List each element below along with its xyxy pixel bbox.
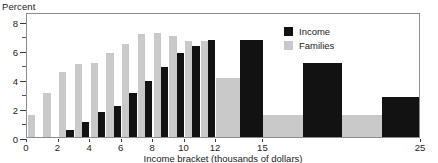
y-tick-label-8: 8 <box>13 17 18 28</box>
x-tick-label-8: 8 <box>149 142 154 153</box>
chart-legend: Income Families <box>284 27 334 54</box>
bar-income-9-10 <box>177 53 184 137</box>
bar-income-10-11 <box>192 46 199 137</box>
y-tick-label-6: 6 <box>13 46 18 57</box>
x-tick-label-4: 4 <box>86 142 91 153</box>
bar-families-7-8 <box>138 34 145 137</box>
legend-label-families: Families <box>299 41 334 51</box>
bar-income-15-20 <box>303 63 342 137</box>
bar-income-8-9 <box>161 67 168 137</box>
bar-income-3-4 <box>82 122 89 137</box>
plot-area <box>26 13 420 138</box>
bar-families-9-10 <box>169 36 176 137</box>
bar-families-6-7 <box>122 44 129 137</box>
bar-families-10-11 <box>185 41 192 137</box>
legend-item-families: Families <box>284 41 334 51</box>
bar-income-7-8 <box>145 81 152 137</box>
bar-income-4-5 <box>98 112 105 137</box>
bar-income-5-6 <box>114 106 121 137</box>
legend-swatch-income-icon <box>284 27 293 36</box>
bar-families-0-1 <box>28 115 35 137</box>
bar-families-2-3 <box>59 72 66 137</box>
bar-families-5-6 <box>106 53 113 137</box>
y-tick-label-0: 0 <box>13 134 18 145</box>
y-tick-label-2: 2 <box>13 104 18 115</box>
x-tick-label-2: 2 <box>55 142 60 153</box>
bar-income-2-3 <box>66 130 73 137</box>
bar-income-6-7 <box>129 93 136 137</box>
bar-families-3-4 <box>75 64 82 137</box>
legend-swatch-families-icon <box>284 41 293 50</box>
legend-item-income: Income <box>284 27 334 37</box>
bar-families-11-12 <box>201 41 208 137</box>
x-tick-label-25: 25 <box>415 142 426 153</box>
x-tick-label-6: 6 <box>118 142 123 153</box>
bar-families-1-2 <box>43 93 50 137</box>
bar-income-12-15 <box>240 40 264 137</box>
income-distribution-chart: Percent 02468 0246810121525 Income brack… <box>0 0 438 163</box>
y-tick-label-4: 4 <box>13 75 18 86</box>
y-axis: 02468 <box>0 13 26 139</box>
x-tick-label-10: 10 <box>178 142 189 153</box>
x-tick-label-15: 15 <box>257 142 268 153</box>
bars-layer <box>27 14 419 137</box>
x-axis-title: Income bracket (thousands of dollars) <box>26 153 420 163</box>
bar-families-8-9 <box>154 33 161 137</box>
y-axis-label: Percent <box>2 1 35 12</box>
x-tick-label-0: 0 <box>23 142 28 153</box>
bar-families-4-5 <box>91 63 98 137</box>
bar-income-20-25 <box>382 97 419 137</box>
bar-income-11-12 <box>208 40 215 137</box>
x-tick-label-12: 12 <box>210 142 221 153</box>
legend-label-income: Income <box>299 27 330 37</box>
